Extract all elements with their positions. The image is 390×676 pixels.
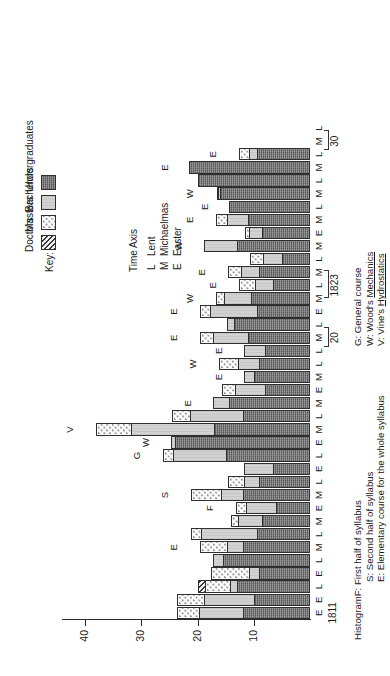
bar-segment-u xyxy=(189,161,310,173)
bar-segment-u xyxy=(243,489,310,501)
bar-segment-b xyxy=(213,397,230,409)
bar-segment-b xyxy=(201,528,257,540)
bar-column[interactable] xyxy=(243,227,310,239)
term-label: M xyxy=(313,161,324,173)
bar-segment-u xyxy=(257,528,310,540)
bar-column[interactable] xyxy=(226,266,310,278)
bar-segment-b xyxy=(227,214,249,226)
bar-column[interactable] xyxy=(212,554,310,566)
bar-column[interactable] xyxy=(226,318,310,330)
bar-segment-m xyxy=(211,567,250,579)
term-label: E xyxy=(313,463,324,475)
term-label: M xyxy=(313,135,324,147)
bar-column[interactable] xyxy=(243,371,310,383)
bar-column[interactable] xyxy=(212,397,310,409)
time-axis-letter: M xyxy=(159,262,170,270)
term-label: L xyxy=(313,358,324,370)
bar-column[interactable] xyxy=(203,240,310,252)
bar-column[interactable] xyxy=(198,332,310,344)
legend-label: Undergraduates xyxy=(24,120,35,192)
bar-column[interactable] xyxy=(189,489,310,501)
course-annotation: E xyxy=(207,148,218,160)
bar-segment-m xyxy=(191,489,222,501)
term-label: M xyxy=(313,541,324,553)
bar-column[interactable] xyxy=(229,201,310,213)
bar-segment-b xyxy=(190,410,243,422)
bar-segment-m xyxy=(96,423,133,435)
bar-segment-u xyxy=(265,345,310,357)
term-label: E xyxy=(313,502,324,514)
year-label: 30 xyxy=(329,125,340,157)
bar-column[interactable] xyxy=(214,292,310,304)
bar-column[interactable] xyxy=(198,541,310,553)
bar-column[interactable] xyxy=(214,187,310,199)
bar-column[interactable] xyxy=(175,594,310,606)
hatch-swatch xyxy=(41,235,56,250)
bar-segment-u xyxy=(229,201,310,213)
bar-segment-b xyxy=(173,449,226,461)
course-annotation: F xyxy=(204,502,215,514)
axis-tick-label: 20 xyxy=(191,630,203,664)
bar-segment-m xyxy=(219,358,239,370)
term-label: E xyxy=(313,567,324,579)
bar-column[interactable] xyxy=(209,567,310,579)
bar-column[interactable] xyxy=(189,161,310,173)
bar-column[interactable] xyxy=(189,528,310,540)
bar-column[interactable] xyxy=(226,476,310,488)
bar-segment-u xyxy=(276,502,310,514)
bar-segment-m xyxy=(228,266,242,278)
bar-column[interactable] xyxy=(161,449,310,461)
course-annotation: W xyxy=(187,358,198,370)
bar-column[interactable] xyxy=(217,358,310,370)
bar-segment-b xyxy=(199,607,244,619)
time-axis-word: Michaelmas xyxy=(159,203,170,256)
axis-tick-label: 40 xyxy=(78,630,90,664)
bar-segment-b xyxy=(263,253,283,265)
bar-segment-b xyxy=(244,476,261,488)
bar-segment-u xyxy=(175,436,310,448)
bar-column[interactable] xyxy=(170,436,311,448)
term-label: L xyxy=(313,279,324,291)
bar-column[interactable] xyxy=(170,410,311,422)
bar-segment-b xyxy=(235,384,266,396)
bar-column[interactable] xyxy=(237,279,310,291)
bar-segment-u xyxy=(273,463,310,475)
bar-segment-b xyxy=(244,463,275,475)
term-label: L xyxy=(313,122,324,134)
bar-column[interactable] xyxy=(234,502,310,514)
term-label: M xyxy=(313,371,324,383)
year-label: 1823 xyxy=(329,269,340,301)
bar-segment-b xyxy=(224,292,252,304)
term-label: M xyxy=(313,266,324,278)
course-annotation: E xyxy=(199,201,210,213)
bar-column[interactable] xyxy=(220,384,310,396)
bar-column[interactable] xyxy=(198,174,310,186)
bar-column[interactable] xyxy=(248,253,310,265)
bar-segment-u xyxy=(262,515,310,527)
bar-column[interactable] xyxy=(214,214,310,226)
bar-segment-u xyxy=(282,253,310,265)
bar-segment-u xyxy=(243,541,310,553)
histogram-word: Histogram xyxy=(352,596,364,640)
bar-column[interactable] xyxy=(243,463,310,475)
bar-segment-u xyxy=(273,279,310,291)
bar-segment-m xyxy=(172,410,192,422)
bar-column[interactable] xyxy=(229,515,310,527)
bar-column[interactable] xyxy=(243,345,310,357)
term-label: M xyxy=(313,515,324,527)
bar-column[interactable] xyxy=(237,148,310,160)
bar-column[interactable] xyxy=(195,580,310,592)
bar-column[interactable] xyxy=(94,423,310,435)
bar-segment-u xyxy=(234,318,310,330)
bar-segment-u xyxy=(220,187,310,199)
term-label: L xyxy=(313,580,324,592)
term-label: L xyxy=(313,201,324,213)
bar-column[interactable] xyxy=(175,607,310,619)
time-axis-title: Time Axis xyxy=(128,229,139,272)
bar-segment-u xyxy=(248,214,310,226)
bar-column[interactable] xyxy=(198,305,310,317)
footnote-text: G: General course xyxy=(352,252,364,346)
bar-segment-b xyxy=(238,358,260,370)
bar-segment-b xyxy=(210,305,258,317)
bar-segment-m xyxy=(228,476,245,488)
